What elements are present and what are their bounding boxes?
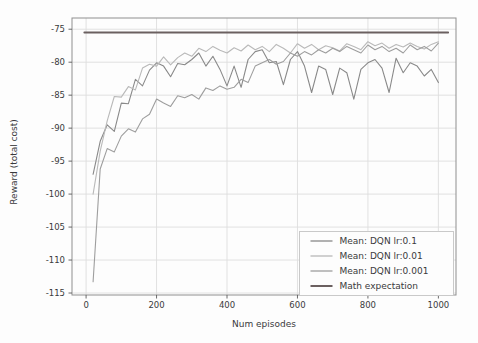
series-line-mean-dqn-lr-0.1 [93,50,438,175]
x-tick-label: 800 [360,300,376,310]
legend-label: Mean: DQN lr:0.1 [340,236,417,246]
x-tick-label: 200 [148,300,164,310]
x-tick-label: 400 [219,300,235,310]
legend-label: Mean: DQN lr:0.01 [340,251,423,261]
x-axis-label: Num episodes [232,319,296,329]
legend-label: Mean: DQN lr:0.001 [340,266,429,276]
y-tick-label: -80 [51,57,65,67]
y-axis-label: Reward (total cost) [9,119,19,205]
x-tick-label: 1000 [428,300,450,310]
x-tick-label: 0 [83,300,88,310]
figure-page: 02004006008001000-75-80-85-90-95-100-105… [0,0,478,343]
y-tick-label: -90 [51,123,65,133]
reward-vs-episodes-chart: 02004006008001000-75-80-85-90-95-100-105… [0,0,478,343]
y-tick-label: -115 [46,288,65,298]
y-tick-label: -105 [46,222,65,232]
legend-label: Math expectation [340,281,419,291]
y-tick-label: -100 [46,189,65,199]
y-tick-label: -95 [51,156,65,166]
y-tick-label: -110 [46,255,65,265]
y-tick-label: -75 [51,24,65,34]
legend: Mean: DQN lr:0.1Mean: DQN lr:0.01Mean: D… [300,232,454,296]
x-tick-label: 600 [289,300,305,310]
y-tick-label: -85 [51,90,65,100]
